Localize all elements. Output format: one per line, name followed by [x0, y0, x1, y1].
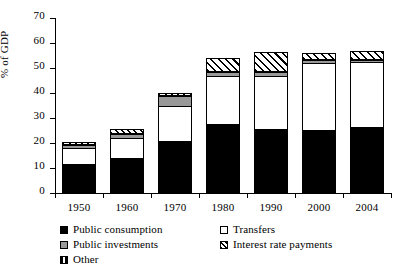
- x-axis-tick-mark: [151, 193, 152, 198]
- legend-row: Public investmentsInterest rate payments: [60, 237, 405, 252]
- y-axis-tick-label: 20: [34, 135, 45, 146]
- bar-group[interactable]: [254, 52, 288, 193]
- legend-label: Interest rate payments: [233, 239, 332, 250]
- plot-area: [55, 18, 391, 193]
- bar-segment[interactable]: [206, 124, 240, 193]
- legend-item[interactable]: Transfers: [220, 222, 275, 237]
- legend-swatch-icon: [220, 241, 228, 249]
- bar-segment[interactable]: [302, 64, 336, 130]
- x-axis-tick-mark: [343, 193, 344, 198]
- legend-label: Public investments: [73, 239, 158, 250]
- bar-segment[interactable]: [158, 93, 192, 96]
- bar-segment[interactable]: [206, 77, 240, 125]
- bar-segment[interactable]: [158, 107, 192, 141]
- bar-segment[interactable]: [254, 52, 288, 73]
- bar-segment[interactable]: [350, 63, 384, 128]
- legend-item[interactable]: Other: [60, 252, 99, 267]
- legend-item[interactable]: Interest rate payments: [220, 237, 332, 252]
- bar-segment[interactable]: [350, 60, 384, 63]
- x-axis-tick-mark: [391, 193, 392, 198]
- bar-segment[interactable]: [254, 77, 288, 129]
- bar-segment[interactable]: [158, 141, 192, 194]
- bar-segment[interactable]: [350, 127, 384, 193]
- bar-segment[interactable]: [302, 53, 336, 61]
- bar-segment[interactable]: [254, 129, 288, 194]
- y-axis-tick-label: 50: [34, 60, 45, 71]
- legend-label: Public consumption: [73, 224, 163, 235]
- bar-segment[interactable]: [110, 134, 144, 139]
- bar-segment[interactable]: [62, 149, 96, 164]
- bar-group[interactable]: [158, 93, 192, 193]
- chart-legend: Public consumptionTransfersPublic invest…: [60, 222, 405, 267]
- legend-item[interactable]: Public consumption: [60, 222, 163, 237]
- stacked-bar-chart: % of GDP 706050403020100 195019601970198…: [0, 0, 412, 270]
- y-axis-tick-label: 30: [34, 110, 45, 121]
- y-axis-tick-label: 40: [34, 85, 45, 96]
- bar-segment[interactable]: [110, 129, 144, 134]
- legend-swatch-icon: [220, 226, 228, 234]
- bar-group[interactable]: [302, 53, 336, 194]
- bar-group[interactable]: [206, 58, 240, 193]
- bar-segment[interactable]: [110, 139, 144, 157]
- bar-group[interactable]: [110, 129, 144, 193]
- legend-item[interactable]: Public investments: [60, 237, 158, 252]
- legend-swatch-icon: [60, 241, 68, 249]
- legend-swatch-icon: [60, 256, 68, 264]
- y-axis-tick-label: 0: [39, 185, 45, 196]
- y-axis-tick-label: 10: [34, 160, 45, 171]
- bar-segment[interactable]: [254, 72, 288, 76]
- legend-label: Transfers: [233, 224, 275, 235]
- legend-label: Other: [73, 254, 99, 265]
- x-axis-tick-mark: [295, 193, 296, 198]
- x-axis-tick-mark: [247, 193, 248, 198]
- bar-segment[interactable]: [350, 51, 384, 60]
- bar-segment[interactable]: [206, 72, 240, 77]
- bar-segment[interactable]: [302, 130, 336, 193]
- legend-row: Other: [60, 252, 405, 267]
- y-axis-title: % of GDP: [0, 0, 10, 78]
- y-axis-tick-label: 70: [34, 10, 45, 21]
- bar-segment[interactable]: [62, 145, 96, 149]
- bar-group[interactable]: [62, 142, 96, 193]
- bar-segment[interactable]: [62, 164, 96, 193]
- bar-segment[interactable]: [62, 142, 96, 146]
- x-axis-line: [55, 193, 392, 194]
- bar-segment[interactable]: [158, 96, 192, 107]
- bar-segment[interactable]: [110, 158, 144, 194]
- y-axis-tick-label: 60: [34, 35, 45, 46]
- x-axis-tick-label: 2004: [337, 201, 397, 213]
- x-axis-tick-mark: [103, 193, 104, 198]
- legend-row: Public consumptionTransfers: [60, 222, 405, 237]
- x-axis-tick-mark: [199, 193, 200, 198]
- bar-group[interactable]: [350, 51, 384, 194]
- x-axis-tick-mark: [55, 193, 56, 198]
- bar-segment[interactable]: [302, 60, 336, 64]
- legend-swatch-icon: [60, 226, 68, 234]
- bar-segment[interactable]: [206, 58, 240, 72]
